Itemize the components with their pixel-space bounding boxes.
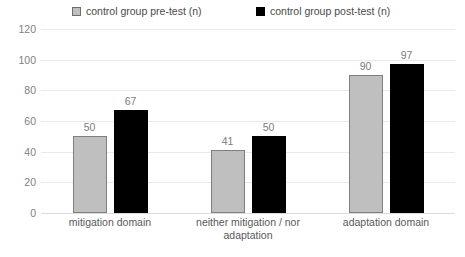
- x-axis-category-labels: mitigation domainneither mitigation / no…: [41, 216, 455, 256]
- bar-value-label: 50: [252, 122, 286, 133]
- bar-value-label: 97: [390, 50, 424, 61]
- y-axis-tick-label: 120: [0, 24, 36, 35]
- legend-label-post-test: control group post-test (n): [270, 6, 390, 17]
- y-axis-labels: 020406080100120: [0, 29, 36, 213]
- bar: [390, 64, 424, 213]
- x-axis-category-label: neither mitigation / noradaptation: [179, 216, 317, 242]
- legend-swatch-icon-pre-test: [72, 7, 81, 16]
- y-axis-tick-label: 20: [0, 177, 36, 188]
- legend-entry-pre-test: control group pre-test (n): [72, 6, 202, 17]
- bar-chart: control group pre-test (n) control group…: [0, 0, 465, 257]
- y-axis-tick-label: 0: [0, 208, 36, 219]
- legend-swatch-icon-post-test: [256, 7, 265, 16]
- y-axis-tick-label: 60: [0, 116, 36, 127]
- x-axis-category-label: mitigation domain: [41, 216, 179, 229]
- bar-value-label: 41: [211, 136, 245, 147]
- x-axis-category-label: adaptation domain: [317, 216, 455, 229]
- bar-value-label: 90: [349, 61, 383, 72]
- bar: [73, 136, 107, 213]
- bar-value-label: 50: [73, 122, 107, 133]
- y-axis-tick-label: 100: [0, 54, 36, 65]
- bar-series-container: 506741509097: [41, 29, 455, 213]
- bar: [252, 136, 286, 213]
- bar-value-label: 67: [114, 96, 148, 107]
- plot-area: 506741509097: [41, 29, 455, 213]
- y-axis-tick-label: 80: [0, 85, 36, 96]
- gridline-0: [41, 213, 455, 214]
- chart-legend: control group pre-test (n) control group…: [0, 6, 465, 26]
- legend-label-pre-test: control group pre-test (n): [86, 6, 202, 17]
- bar: [211, 150, 245, 213]
- bar: [349, 75, 383, 213]
- bar: [114, 110, 148, 213]
- y-axis-tick-label: 40: [0, 146, 36, 157]
- legend-entry-post-test: control group post-test (n): [256, 6, 390, 17]
